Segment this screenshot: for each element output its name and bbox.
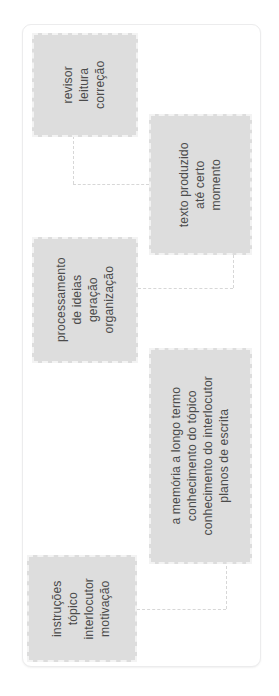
node-memoria-line-1: a memória a longo termo bbox=[169, 376, 185, 535]
node-processamento-line-3: geração bbox=[85, 258, 101, 343]
connector-processamento-vertical bbox=[233, 255, 234, 288]
node-memoria-line-2: conhecimento do tópico bbox=[185, 376, 201, 535]
node-memoria-longo-termo[interactable]: a memória a longo termo conhecimento do … bbox=[149, 348, 252, 564]
node-memoria-line-4: planos de escrita bbox=[216, 376, 232, 535]
node-instrucoes-line-4: motivação bbox=[98, 578, 114, 640]
node-texto-produzido-line-3: momento bbox=[208, 142, 224, 227]
node-processamento-line-4: organização bbox=[101, 258, 117, 343]
node-revisor-line-3: correção bbox=[93, 61, 109, 109]
node-memoria-longo-termo-label: a memória a longo termo conhecimento do … bbox=[169, 376, 232, 535]
node-instrucoes[interactable]: instruções tópico interlocutor motivação bbox=[27, 555, 137, 662]
node-instrucoes-line-3: interlocutor bbox=[82, 578, 98, 640]
node-texto-produzido-line-2: até certo bbox=[193, 142, 209, 227]
node-memoria-line-3: conhecimento do interlocutor bbox=[201, 376, 217, 535]
connector-processamento-horizontal bbox=[138, 288, 233, 289]
connector-instrucoes-horizontal bbox=[137, 609, 226, 610]
node-instrucoes-line-1: instruções bbox=[50, 578, 66, 640]
node-revisor-label: revisor leitura correção bbox=[61, 61, 109, 109]
connector-instrucoes-vertical bbox=[226, 566, 227, 609]
node-revisor-line-1: revisor bbox=[61, 61, 77, 109]
node-processamento-line-1: processamento bbox=[53, 258, 69, 343]
connector-revisor-horizontal bbox=[73, 184, 149, 185]
node-processamento[interactable]: processamento de ideias geração organiza… bbox=[32, 237, 138, 363]
node-texto-produzido[interactable]: texto produzido até certo momento bbox=[149, 114, 252, 255]
node-instrucoes-line-2: tópico bbox=[66, 578, 82, 640]
node-texto-produzido-line-1: texto produzido bbox=[177, 142, 193, 227]
node-processamento-label: processamento de ideias geração organiza… bbox=[53, 258, 116, 343]
node-instrucoes-label: instruções tópico interlocutor motivação bbox=[50, 578, 113, 640]
node-texto-produzido-label: texto produzido até certo momento bbox=[177, 142, 225, 227]
diagram-canvas: revisor leitura correção texto produzido… bbox=[0, 0, 279, 696]
node-processamento-line-2: de ideias bbox=[69, 258, 85, 343]
node-revisor-line-2: leitura bbox=[77, 61, 93, 109]
connector-revisor-vertical bbox=[73, 136, 74, 184]
node-revisor[interactable]: revisor leitura correção bbox=[32, 33, 138, 137]
